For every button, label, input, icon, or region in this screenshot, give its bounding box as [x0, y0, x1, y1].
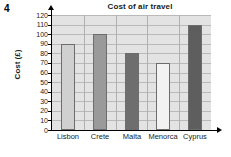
plot-area	[52, 15, 211, 130]
y-axis-tick	[48, 44, 51, 45]
y-axis-tick-label: 110	[18, 21, 48, 28]
y-axis-tick-label: 80	[18, 50, 48, 57]
y-axis-tick	[48, 63, 51, 64]
y-axis-tick-label: 60	[18, 69, 48, 76]
bar-malta	[125, 53, 139, 130]
y-axis-tick	[48, 111, 51, 112]
bar-crete	[93, 34, 107, 130]
y-axis-tick-label: 120	[18, 12, 48, 19]
y-axis-tick	[48, 120, 51, 121]
y-axis-tick	[48, 53, 51, 54]
y-axis-tick	[48, 15, 51, 16]
bar-menorca	[156, 63, 170, 130]
bar-series	[52, 15, 211, 130]
chart-figure: 4 Cost of air travel Cost (£) 0102030405…	[0, 0, 231, 157]
y-axis-tick-label: 70	[18, 59, 48, 66]
y-axis-tick	[48, 82, 51, 83]
y-axis-tick-label: 10	[18, 117, 48, 124]
chart-title: Cost of air travel	[52, 2, 228, 12]
y-axis-tick	[48, 34, 51, 35]
y-axis-arrow-icon	[48, 5, 54, 10]
y-axis-tick-label: 30	[18, 98, 48, 105]
x-axis-line	[51, 130, 218, 131]
x-axis-tick-label-cyprus: Cyprus	[173, 132, 217, 141]
y-axis-tick-label: 90	[18, 40, 48, 47]
y-axis-line	[51, 9, 52, 131]
bar-lisbon	[61, 44, 75, 130]
y-axis-tick	[48, 101, 51, 102]
y-axis-tick-label: 20	[18, 107, 48, 114]
x-axis-arrow-icon	[217, 127, 222, 133]
bar-cyprus	[188, 25, 202, 130]
question-number: 4	[4, 3, 10, 14]
y-axis-tick-label: 100	[18, 31, 48, 38]
y-axis-tick-label: 0	[18, 127, 48, 134]
y-axis-tick-label: 40	[18, 88, 48, 95]
y-axis-tick	[48, 73, 51, 74]
y-axis-tick-label: 50	[18, 79, 48, 86]
y-axis-tick	[48, 25, 51, 26]
y-axis-tick	[48, 130, 51, 131]
y-axis-tick	[48, 92, 51, 93]
